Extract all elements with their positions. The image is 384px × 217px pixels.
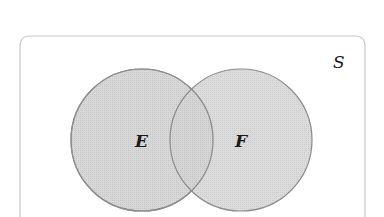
venn-diagram: S E F [0,0,384,217]
set-e-label: E [134,131,149,151]
set-f-label: F [234,131,249,151]
universe-label: S [333,52,345,72]
